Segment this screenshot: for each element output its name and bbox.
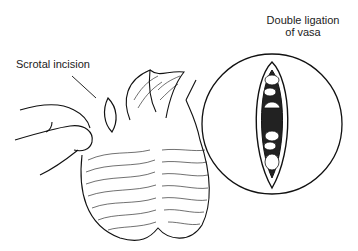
leader-line-incision <box>72 76 96 98</box>
inset-circle <box>202 54 342 194</box>
illustration <box>0 0 358 251</box>
scrotum-drawing <box>15 70 209 240</box>
